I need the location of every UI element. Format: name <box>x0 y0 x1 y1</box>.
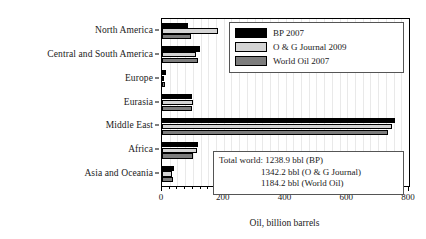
bar <box>162 100 193 105</box>
x-tick-minor <box>184 186 185 189</box>
category-label: North America <box>95 25 153 35</box>
bar <box>162 166 174 171</box>
legend-item: World Oil 2007 <box>235 54 399 68</box>
category-tick <box>155 101 159 102</box>
bar <box>162 46 200 51</box>
bar <box>162 148 197 153</box>
x-tick-minor <box>176 186 177 189</box>
gridline <box>193 19 194 186</box>
category-label: Eurasia <box>124 97 153 107</box>
bar <box>162 142 198 147</box>
bar <box>162 52 196 57</box>
category-label: Africa <box>128 144 153 154</box>
x-tick-major <box>161 186 162 191</box>
bar <box>162 76 164 81</box>
bar <box>162 23 188 28</box>
bar <box>162 171 172 176</box>
x-tick-label: 0 <box>159 192 164 202</box>
category-label: Central and South America <box>47 49 153 59</box>
category-tick <box>155 53 159 54</box>
category-axis: North AmericaCentral and South AmericaEu… <box>0 18 159 185</box>
legend-item: BP 2007 <box>235 26 399 40</box>
legend: BP 2007 O & G Journal 2009 World Oil 200… <box>229 22 404 73</box>
bar <box>162 58 198 63</box>
bar <box>162 94 192 99</box>
x-tick-minor <box>192 186 193 189</box>
bar <box>162 82 165 87</box>
x-tick-minor <box>169 186 170 189</box>
annotation-line-world-oil: 1184.2 bbl (World Oil) <box>219 178 398 190</box>
gridline <box>208 19 209 186</box>
category-label: Asia and Oceania <box>84 168 153 178</box>
bar <box>162 34 191 39</box>
legend-swatch-og-journal <box>235 42 267 52</box>
category-tick <box>155 77 159 78</box>
bar <box>162 124 392 129</box>
annotation-line-bp: Total world: 1238.9 bbl (BP) <box>219 155 398 167</box>
bar <box>162 130 388 135</box>
total-world-annotation: Total world: 1238.9 bbl (BP) 1342.2 bbl … <box>213 151 404 195</box>
bar <box>162 106 192 111</box>
legend-item: O & G Journal 2009 <box>235 40 399 54</box>
category-tick <box>155 173 159 174</box>
category-label: Europe <box>125 73 153 83</box>
legend-swatch-world-oil <box>235 56 267 66</box>
annotation-line-og-journal: 1342.2 bbl (O & G Journal) <box>219 167 398 179</box>
legend-label-og-journal: O & G Journal 2009 <box>273 42 347 52</box>
x-axis-label: Oil, billion barrels <box>161 218 408 228</box>
legend-label-world-oil: World Oil 2007 <box>273 56 329 66</box>
legend-swatch-bp <box>235 28 267 38</box>
x-tick-minor <box>207 186 208 189</box>
gridline <box>201 19 202 186</box>
bar-chart-figure: North AmericaCentral and South AmericaEu… <box>0 0 426 239</box>
bar <box>162 70 166 75</box>
legend-label-bp: BP 2007 <box>273 28 304 38</box>
bar <box>162 118 395 123</box>
bar <box>162 177 173 182</box>
bar <box>162 28 218 33</box>
category-tick <box>155 125 159 126</box>
category-tick <box>155 29 159 30</box>
bar <box>162 153 193 158</box>
category-label: Middle East <box>106 120 153 130</box>
x-tick-minor <box>200 186 201 189</box>
x-tick-major <box>408 186 409 191</box>
category-tick <box>155 149 159 150</box>
